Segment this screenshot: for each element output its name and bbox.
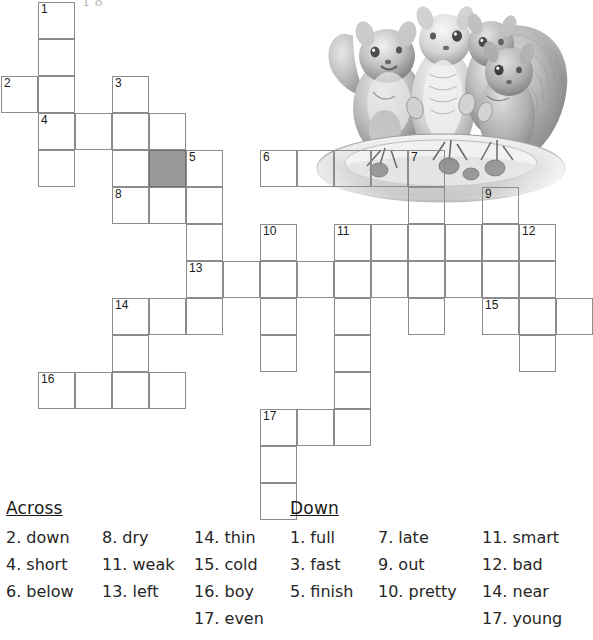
- crossword-cell[interactable]: [297, 409, 334, 446]
- across-clue-column-1: 2. down4. short6. below: [6, 524, 102, 632]
- across-clue: 11. weak: [102, 551, 194, 578]
- crossword-cell-17[interactable]: 17: [260, 409, 297, 446]
- across-clue: 17. even: [194, 605, 286, 632]
- down-clue: 3. fast: [290, 551, 378, 578]
- crossword-cell-11[interactable]: 11: [334, 224, 371, 261]
- crossword-cell[interactable]: [186, 298, 223, 335]
- crossword-cell-5[interactable]: 5: [186, 150, 223, 187]
- crossword-cell[interactable]: [38, 39, 75, 76]
- cell-number-7: 7: [411, 151, 418, 164]
- crossword-cell[interactable]: [260, 335, 297, 372]
- crossword-cell[interactable]: [408, 261, 445, 298]
- crossword-cell-15[interactable]: 15: [482, 298, 519, 335]
- crossword-cell[interactable]: [408, 298, 445, 335]
- down-clue: 17. young: [482, 605, 572, 632]
- crossword-cell-8[interactable]: 8: [112, 187, 149, 224]
- across-clue: 13. left: [102, 578, 194, 605]
- cell-number-16: 16: [41, 373, 54, 386]
- down-clue: 11. smart: [482, 524, 572, 551]
- crossword-cell[interactable]: [75, 113, 112, 150]
- across-clue-column-3: 14. thin15. cold16. boy17. even: [194, 524, 286, 632]
- crossword-cell[interactable]: [482, 261, 519, 298]
- across-clue-group: Across 2. down4. short6. below8. dry11. …: [6, 498, 286, 632]
- crossword-cell[interactable]: [556, 298, 593, 335]
- crossword-cell[interactable]: [371, 150, 408, 187]
- down-clue: 1. full: [290, 524, 378, 551]
- cell-number-4: 4: [41, 114, 48, 127]
- crossword-cell[interactable]: [75, 372, 112, 409]
- crossword-cell[interactable]: [297, 261, 334, 298]
- cell-number-9: 9: [485, 188, 492, 201]
- crossword-cell[interactable]: [38, 150, 75, 187]
- down-clue-column-1: 1. full3. fast5. finish: [290, 524, 378, 632]
- crossword-cell-16[interactable]: 16: [38, 372, 75, 409]
- crossword-cell-9[interactable]: 9: [482, 187, 519, 224]
- crossword-cell-13[interactable]: 13: [186, 261, 223, 298]
- down-clue-column-2: 7. late9. out10. pretty: [378, 524, 482, 632]
- across-clue: 16. boy: [194, 578, 286, 605]
- crossword-cell[interactable]: [112, 335, 149, 372]
- crossword-cell[interactable]: [408, 187, 445, 224]
- across-clue-columns: 2. down4. short6. below8. dry11. weak13.…: [6, 524, 286, 632]
- crossword-cell[interactable]: [112, 113, 149, 150]
- crossword-cell[interactable]: [112, 150, 149, 187]
- crossword-cell-2[interactable]: 2: [1, 76, 38, 113]
- crossword-cell[interactable]: [149, 113, 186, 150]
- down-clue: 7. late: [378, 524, 482, 551]
- cell-number-8: 8: [115, 188, 122, 201]
- crossword-cell-7[interactable]: 7: [408, 150, 445, 187]
- crossword-cell[interactable]: [149, 187, 186, 224]
- crossword-cell[interactable]: [260, 298, 297, 335]
- across-clue: 6. below: [6, 578, 102, 605]
- down-clue-column-3: 11. smart12. bad14. near17. young: [482, 524, 572, 632]
- down-clue-group: Down 1. full3. fast5. finish7. late9. ou…: [290, 498, 575, 632]
- crossword-cell[interactable]: [186, 187, 223, 224]
- crossword-cell-3[interactable]: 3: [112, 76, 149, 113]
- crossword-cell[interactable]: [519, 261, 556, 298]
- crossword-cell[interactable]: [149, 298, 186, 335]
- crossword-cell[interactable]: [334, 372, 371, 409]
- crossword-cell-1[interactable]: 1: [38, 2, 75, 39]
- crossword-cell[interactable]: [445, 261, 482, 298]
- crossword-cell[interactable]: [482, 224, 519, 261]
- crossword-cell[interactable]: [223, 261, 260, 298]
- crossword-cell[interactable]: [112, 372, 149, 409]
- crossword-cell[interactable]: [371, 224, 408, 261]
- crossword-cell-12[interactable]: 12: [519, 224, 556, 261]
- across-clue-column-2: 8. dry11. weak13. left: [102, 524, 194, 632]
- cell-number-2: 2: [4, 77, 11, 90]
- crossword-cell[interactable]: [297, 150, 334, 187]
- crossword-cell[interactable]: [445, 224, 482, 261]
- crossword-cell[interactable]: [334, 150, 371, 187]
- down-clue: 12. bad: [482, 551, 572, 578]
- across-clue: 15. cold: [194, 551, 286, 578]
- crossword-cell-14[interactable]: 14: [112, 298, 149, 335]
- down-clue: 14. near: [482, 578, 572, 605]
- crossword-cell[interactable]: [371, 261, 408, 298]
- crossword-cell[interactable]: [334, 409, 371, 446]
- cell-number-11: 11: [337, 225, 349, 238]
- crossword-cell[interactable]: [260, 446, 297, 483]
- down-clue-columns: 1. full3. fast5. finish7. late9. out10. …: [290, 524, 575, 632]
- crossword-cell[interactable]: [334, 335, 371, 372]
- crossword-cell[interactable]: [260, 261, 297, 298]
- crossword-cell[interactable]: [334, 298, 371, 335]
- crossword-cell[interactable]: [408, 224, 445, 261]
- crossword-cell-4[interactable]: 4: [38, 113, 75, 150]
- crossword-cell-6[interactable]: 6: [260, 150, 297, 187]
- across-clue: 4. short: [6, 551, 102, 578]
- crossword-cell[interactable]: [519, 335, 556, 372]
- across-clue: 2. down: [6, 524, 102, 551]
- across-clue: 14. thin: [194, 524, 286, 551]
- cell-number-5: 5: [189, 151, 196, 164]
- crossword-grid[interactable]: 1234567891011121314151617: [0, 0, 575, 500]
- crossword-cell[interactable]: [519, 298, 556, 335]
- crossword-cell[interactable]: [334, 261, 371, 298]
- cell-number-17: 17: [263, 410, 276, 423]
- crossword-cell-10[interactable]: 10: [260, 224, 297, 261]
- cell-number-12: 12: [522, 225, 535, 238]
- crossword-cell[interactable]: [186, 224, 223, 261]
- across-heading: Across: [6, 498, 286, 518]
- crossword-cell[interactable]: [38, 76, 75, 113]
- crossword-cell[interactable]: [149, 372, 186, 409]
